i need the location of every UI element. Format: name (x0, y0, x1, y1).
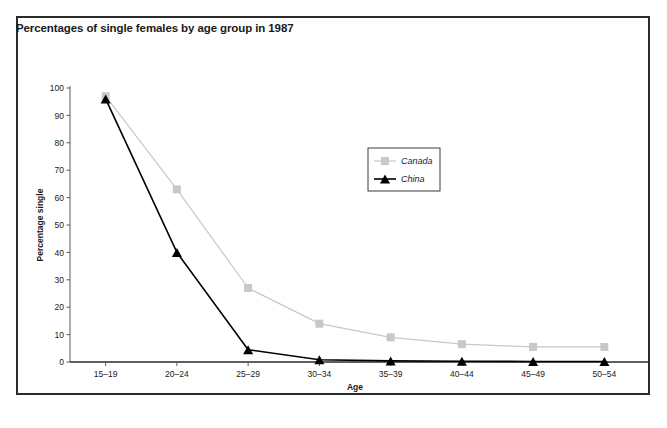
x-tick-label: 20–24 (165, 369, 189, 379)
chart-legend: CanadaChina (368, 148, 440, 191)
data-point-marker (387, 333, 395, 341)
y-axis: 0102030405060708090100 (50, 83, 70, 367)
x-tick-label: 30–34 (308, 369, 332, 379)
y-tick-label: 0 (59, 357, 64, 367)
data-point-marker (315, 320, 323, 328)
y-tick-label: 30 (55, 275, 65, 285)
series-line-canada (106, 96, 605, 347)
y-tick-label: 60 (55, 193, 65, 203)
data-point-marker (172, 248, 182, 257)
y-tick-label: 100 (50, 83, 64, 93)
x-tick-label: 25–29 (236, 369, 260, 379)
legend-label-canada: Canada (401, 156, 433, 166)
x-tick-label: 15–19 (94, 369, 118, 379)
y-tick-label: 40 (55, 248, 65, 258)
y-axis-title: Percentage single (35, 188, 45, 261)
series-line-china (106, 99, 605, 361)
y-tick-label: 80 (55, 138, 65, 148)
data-point-marker (529, 343, 537, 351)
y-tick-label: 50 (55, 220, 65, 230)
x-tick-label: 35–39 (379, 369, 403, 379)
data-point-marker (173, 185, 181, 193)
data-point-marker (244, 284, 252, 292)
x-tick-label: 40–44 (450, 369, 474, 379)
line-chart: 0102030405060708090100 15–1920–2425–2930… (0, 0, 667, 428)
y-tick-label: 20 (55, 302, 65, 312)
y-tick-label: 70 (55, 165, 65, 175)
x-axis-title: Age (347, 382, 363, 392)
y-tick-label: 10 (55, 330, 65, 340)
x-tick-label: 50–54 (593, 369, 617, 379)
series-layer (101, 92, 610, 366)
legend-marker-square (381, 157, 389, 165)
x-tick-label: 45–49 (521, 369, 545, 379)
legend-label-china: China (401, 174, 425, 184)
data-point-marker (458, 340, 466, 348)
y-tick-label: 90 (55, 111, 65, 121)
x-axis: 15–1920–2425–2930–3435–3940–4445–4950–54 (70, 362, 648, 379)
data-point-marker (600, 343, 608, 351)
